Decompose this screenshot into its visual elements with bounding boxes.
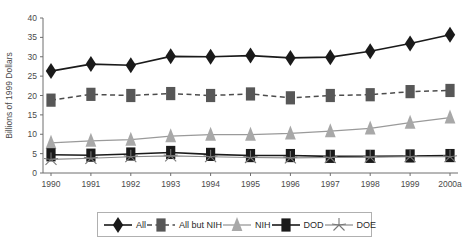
y-tick-group: 0510152025303540 [28, 13, 43, 178]
data-point-nih [325, 123, 336, 137]
data-point-allbutnih [445, 84, 454, 97]
x-tick-label: 1994 [201, 179, 220, 189]
data-point-all [86, 56, 96, 72]
y-tick-label: 40 [28, 13, 38, 23]
x-tick-label: 1993 [161, 179, 180, 189]
data-point-all [325, 49, 335, 65]
y-tick-label: 15 [28, 110, 38, 120]
y-axis: 0510152025303540 [28, 13, 43, 178]
chart-legend: AllAll but NIHNIHDODDOE [97, 212, 372, 237]
legend-label-doe: DOE [356, 220, 377, 230]
y-tick-label: 5 [32, 149, 37, 159]
legend-item-doe[interactable]: DOE [324, 217, 377, 233]
series-nih [46, 110, 456, 149]
data-point-nih [125, 132, 136, 146]
x-tick-label: 1991 [81, 179, 100, 189]
y-axis-title: Billions of 1999 Dollars [4, 52, 14, 138]
data-point-nih [445, 110, 456, 124]
x-tick-label: 1999 [401, 179, 420, 189]
legend-item-allbutnih[interactable]: All but NIH [146, 217, 222, 233]
data-point-doe [84, 151, 98, 164]
data-point-allbutnih [366, 88, 375, 101]
data-point-all [285, 50, 295, 66]
data-point-allbutnih [246, 87, 255, 100]
plot-area: 0510152025303540 19901991199219931994199… [0, 0, 465, 200]
data-point-nih [285, 125, 296, 139]
data-point-all [166, 48, 176, 64]
data-point-nih [205, 127, 216, 141]
x-tick-label: 1997 [321, 179, 340, 189]
chart-svg: 0510152025303540 19901991199219931994199… [0, 0, 465, 200]
series-all [46, 27, 455, 79]
y-tick-label: 35 [28, 32, 38, 42]
x-tick-group: 1990199119921993199419951996199719981999… [42, 173, 463, 189]
data-point-all [365, 43, 375, 59]
legend-key-doe [324, 217, 354, 233]
legend-marker-doe [332, 218, 346, 231]
legend-label-allbutnih: All but NIH [178, 220, 222, 230]
data-point-all [245, 48, 255, 64]
legend-marker-allbutnih [156, 218, 165, 231]
chart-figure: 0510152025303540 19901991199219931994199… [0, 0, 465, 250]
y-tick-label: 0 [32, 168, 37, 178]
x-tick-label: 1992 [121, 179, 140, 189]
legend-item-nih[interactable]: NIH [222, 217, 271, 233]
series-allbutnih [46, 84, 454, 107]
x-tick-label: 2000a [438, 179, 462, 189]
legend-label-all: All [135, 220, 146, 230]
data-point-allbutnih [406, 85, 415, 98]
legend-key-nih [222, 217, 252, 233]
data-point-allbutnih [86, 88, 95, 101]
x-tick-label: 1990 [42, 179, 61, 189]
data-point-nih [245, 127, 256, 141]
data-point-allbutnih [166, 87, 175, 100]
legend-item-all[interactable]: All [103, 217, 146, 233]
y-tick-label: 25 [28, 71, 38, 81]
legend-key-allbutnih [146, 217, 176, 233]
legend-marker-all [113, 217, 123, 233]
data-point-doe [164, 149, 178, 162]
data-point-nih [46, 135, 57, 149]
data-point-nih [86, 133, 97, 147]
x-tick-label: 1998 [361, 179, 380, 189]
legend-marker-nih [232, 217, 243, 231]
data-point-nih [165, 128, 176, 142]
data-point-allbutnih [206, 89, 215, 102]
legend-key-dod [271, 217, 301, 233]
y-tick-label: 30 [28, 52, 38, 62]
legend-marker-dod [281, 218, 290, 231]
x-tick-label: 1995 [241, 179, 260, 189]
data-point-allbutnih [326, 89, 335, 102]
x-tick-label: 1996 [281, 179, 300, 189]
series-layer [44, 27, 457, 165]
y-tick-label: 10 [28, 129, 38, 139]
y-tick-label: 20 [28, 91, 38, 101]
data-point-allbutnih [286, 91, 295, 104]
data-point-all [126, 57, 136, 73]
data-point-all [205, 49, 215, 65]
legend-key-all [103, 217, 133, 233]
data-point-allbutnih [46, 94, 55, 107]
data-point-allbutnih [126, 89, 135, 102]
x-axis: 1990199119921993199419951996199719981999… [42, 173, 463, 189]
data-point-all [46, 63, 56, 79]
data-point-all [405, 36, 415, 52]
legend-label-nih: NIH [254, 220, 271, 230]
series-doe [44, 149, 457, 165]
legend-label-dod: DOD [303, 220, 324, 230]
legend-item-dod[interactable]: DOD [271, 217, 324, 233]
data-point-all [445, 27, 455, 43]
